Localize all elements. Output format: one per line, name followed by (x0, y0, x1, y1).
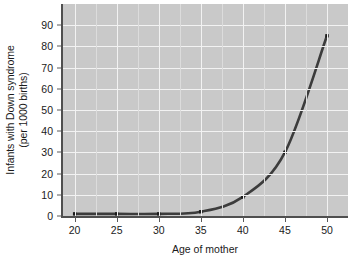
gridline-vertical (117, 4, 118, 216)
x-axis-tick-label: 30 (144, 224, 174, 236)
x-axis-tick-mark (159, 217, 160, 222)
y-axis-tick-label: 70 (31, 62, 53, 74)
gridline-vertical (159, 4, 160, 216)
plot-area (62, 4, 348, 216)
y-axis-tick-mark (57, 194, 61, 195)
x-axis-tick-label: 50 (312, 224, 342, 236)
gridline-vertical (75, 4, 76, 216)
x-axis-tick-mark (117, 217, 118, 222)
y-axis-tick-label: 90 (31, 19, 53, 31)
y-axis-tick-label: 40 (31, 125, 53, 137)
gridline-vertical-minor (96, 4, 97, 216)
gridline-vertical (285, 4, 286, 216)
gridline-vertical-minor (264, 4, 265, 216)
y-axis-tick-mark (57, 110, 61, 111)
y-axis-tick-label: 30 (31, 146, 53, 158)
x-axis-tick-label: 35 (186, 224, 216, 236)
y-axis-tick-label: 60 (31, 83, 53, 95)
x-axis-tick-label: 45 (270, 224, 300, 236)
x-axis-spine (61, 216, 348, 218)
y-axis-tick-mark (57, 46, 61, 47)
y-axis-tick-label: 80 (31, 40, 53, 52)
gridline-vertical-minor (138, 4, 139, 216)
gridline-vertical (201, 4, 202, 216)
x-axis-tick-label: 25 (102, 224, 132, 236)
gridline-vertical-minor (222, 4, 223, 216)
y-axis-spine (61, 4, 63, 218)
gridline-vertical (327, 4, 328, 216)
y-axis-tick-mark (57, 173, 61, 174)
x-axis-tick-mark (285, 217, 286, 222)
gridline-vertical (243, 4, 244, 216)
y-axis-tick-mark (57, 131, 61, 132)
x-axis-tick-mark (243, 217, 244, 222)
y-axis-tick-label: 20 (31, 168, 53, 180)
y-axis-tick-label: 10 (31, 189, 53, 201)
y-axis-title-line1: Infants with Down syndrome (4, 45, 16, 174)
x-axis-tick-mark (75, 217, 76, 222)
gridline-vertical-minor (306, 4, 307, 216)
x-axis-tick-mark (327, 217, 328, 222)
y-axis-tick-mark (57, 152, 61, 153)
y-axis-tick-label: 50 (31, 104, 53, 116)
gridline-vertical-minor (180, 4, 181, 216)
y-axis-tick-mark (57, 216, 61, 217)
x-axis-title: Age of mother (62, 243, 348, 255)
x-axis-tick-label: 40 (228, 224, 258, 236)
y-axis-tick-mark (57, 88, 61, 89)
chart-figure: Infants with Down syndrome (per 1000 bir… (0, 0, 352, 264)
y-axis-title: Infants with Down syndrome (per 1000 bir… (0, 0, 34, 220)
x-axis-tick-mark (201, 217, 202, 222)
y-axis-title-line2: (per 1000 births) (17, 45, 30, 174)
y-axis-tick-mark (57, 25, 61, 26)
y-axis-tick-label: 0 (31, 210, 53, 222)
x-axis-tick-label: 20 (60, 224, 90, 236)
y-axis-tick-mark (57, 67, 61, 68)
